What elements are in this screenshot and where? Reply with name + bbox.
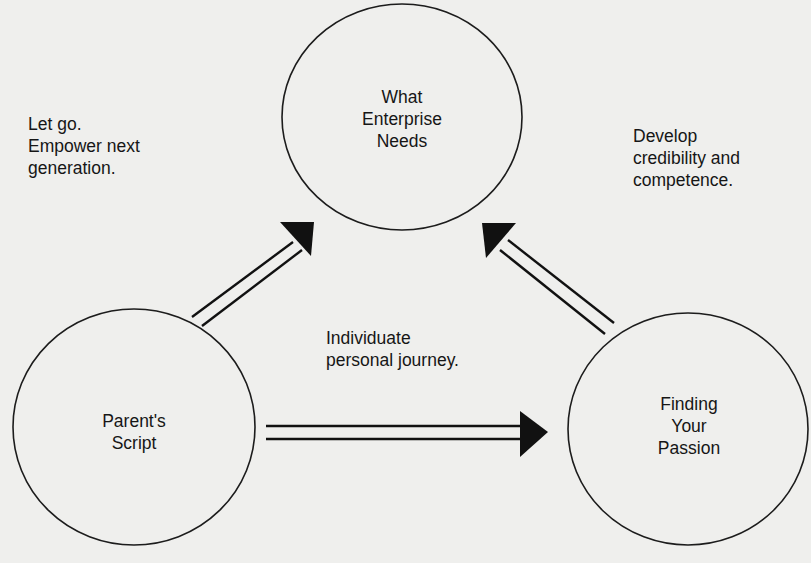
node-label-parents: Parent's Script	[74, 410, 194, 454]
arrow-parents-to-passion	[266, 411, 548, 457]
diagram-canvas	[0, 0, 811, 563]
arrow-parents-to-enterprise	[192, 222, 314, 326]
annotation-individuate: Individuate personal journey.	[326, 327, 459, 371]
annotation-develop: Develop credibility and competence.	[633, 125, 740, 191]
annotation-let-go: Let go. Empower next generation.	[28, 113, 140, 179]
arrow-passion-to-enterprise	[482, 223, 614, 334]
node-label-enterprise: What Enterprise Needs	[342, 86, 462, 152]
node-label-passion: Finding Your Passion	[629, 393, 749, 459]
